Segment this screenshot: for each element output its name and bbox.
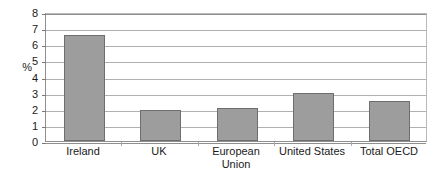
x-axis-category-label: UK [121, 145, 197, 158]
x-axis-category-label: United States [274, 145, 350, 158]
plot-area [45, 13, 427, 142]
y-axis-tick-mark [42, 62, 46, 63]
gridline [46, 143, 426, 144]
y-axis-tick-mark [42, 30, 46, 31]
x-axis-category-label: Total OECD [351, 145, 427, 158]
y-axis-tick-mark [42, 79, 46, 80]
x-axis-category-label: European Union [198, 145, 274, 170]
y-axis-tick-label: 1 [24, 120, 38, 131]
y-axis-tick-label: 4 [24, 72, 38, 83]
y-axis-tick-label: 2 [24, 104, 38, 115]
y-axis-tick-label: 6 [24, 40, 38, 51]
x-axis-category-labels: IrelandUKEuropean UnionUnited StatesTota… [45, 145, 427, 177]
x-axis-tick-mark [351, 142, 352, 146]
y-axis-tick-label: 5 [24, 56, 38, 67]
x-axis-tick-mark [121, 142, 122, 146]
gridline [46, 14, 426, 15]
bar [217, 108, 258, 141]
bar [369, 101, 410, 141]
y-axis-tick-label: 3 [24, 88, 38, 99]
y-axis-tick-label: 0 [24, 137, 38, 148]
y-axis-tick-mark [42, 46, 46, 47]
bar [293, 93, 334, 141]
y-axis-tick-label: 8 [24, 8, 38, 19]
y-axis-tick-mark [42, 111, 46, 112]
gridline [46, 30, 426, 31]
y-axis-tick-mark [42, 14, 46, 15]
y-axis-tick-mark [42, 95, 46, 96]
x-axis-tick-mark [274, 142, 275, 146]
y-axis-tick-labels: 012345678 [24, 0, 38, 177]
y-axis-tick-mark [42, 127, 46, 128]
bar [64, 35, 105, 141]
bar-chart: % 012345678 IrelandUKEuropean UnionUnite… [0, 0, 444, 177]
y-axis-tick-label: 7 [24, 24, 38, 35]
bar [140, 110, 181, 141]
x-axis-category-label: Ireland [45, 145, 121, 158]
x-axis-tick-mark [198, 142, 199, 146]
y-axis-tick-mark [42, 143, 46, 144]
